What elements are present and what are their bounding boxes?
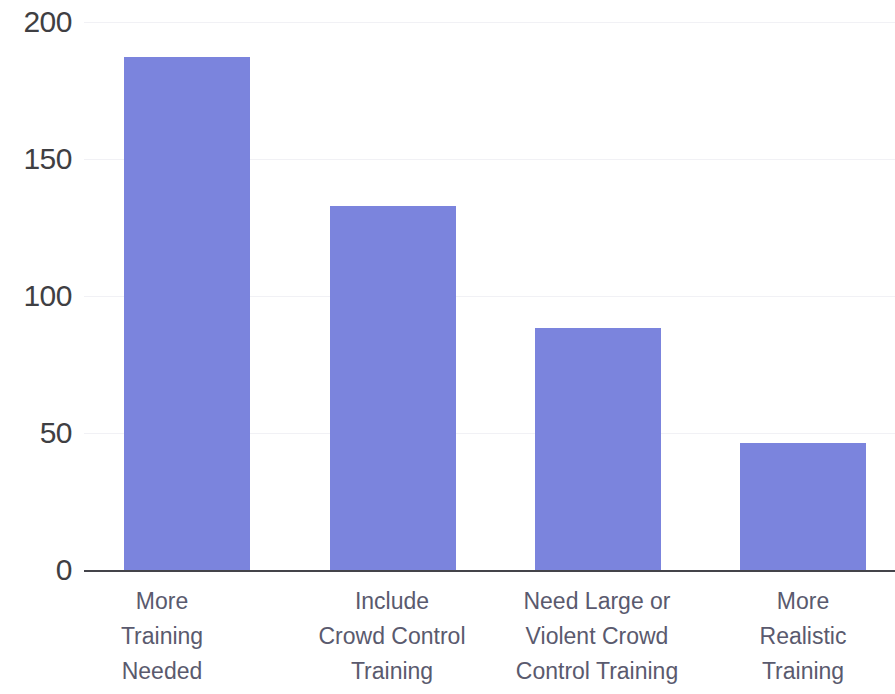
category-label-2-line-0: Need Large or — [482, 584, 712, 619]
category-label-2-line-2: Control Training — [482, 654, 712, 689]
category-label-0-line-1: Training — [47, 619, 277, 654]
category-label-1-line-2: Training — [277, 654, 507, 689]
x-axis-line — [84, 570, 895, 572]
category-label-0-line-0: More — [47, 584, 277, 619]
bar-2 — [535, 328, 661, 571]
category-label-3-line-1: Realistic — [688, 619, 895, 654]
category-label-3-line-0: More — [688, 584, 895, 619]
category-label-0: More Training Needed — [47, 584, 277, 689]
y-tick-label-0: 0 — [0, 555, 72, 585]
category-label-0-line-2: Needed — [47, 654, 277, 689]
y-tick-label-100: 100 — [0, 281, 72, 311]
category-label-3-line-2: Training — [688, 654, 895, 689]
category-label-2-line-1: Violent Crowd — [482, 619, 712, 654]
y-tick-label-50: 50 — [0, 418, 72, 448]
y-tick-label-150: 150 — [0, 144, 72, 174]
plot-area — [84, 0, 895, 571]
category-label-1-line-0: Include — [277, 584, 507, 619]
category-label-1: Include Crowd Control Training — [277, 584, 507, 689]
category-label-1-line-1: Crowd Control — [277, 619, 507, 654]
bar-chart: 200 150 100 50 0 More Training Needed In… — [0, 0, 895, 694]
category-label-2: Need Large or Violent Crowd Control Trai… — [482, 584, 712, 689]
bar-0 — [124, 57, 250, 571]
bar-3 — [740, 443, 866, 572]
category-label-3: More Realistic Training — [688, 584, 895, 689]
y-tick-label-200: 200 — [0, 7, 72, 37]
bar-1 — [330, 206, 456, 571]
